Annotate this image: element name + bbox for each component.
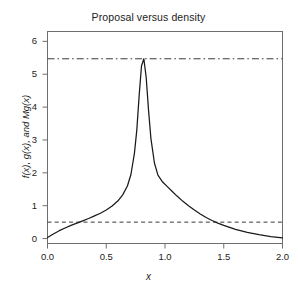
y-tick-label: 0 xyxy=(17,234,37,244)
x-axis-label: x xyxy=(0,271,297,282)
x-tick-label: 0.5 xyxy=(89,252,123,262)
plot-panel-border xyxy=(48,32,283,244)
density-curve-fx xyxy=(48,59,283,238)
x-tick-label: 2.0 xyxy=(266,252,298,262)
x-tick-label: 1.5 xyxy=(207,252,241,262)
plot-canvas xyxy=(0,0,297,294)
y-tick-label: 6 xyxy=(17,36,37,46)
x-axis-ticks xyxy=(48,244,283,249)
y-axis-label: f(x), g(x), and Mg(x) xyxy=(20,57,31,217)
y-axis-ticks xyxy=(43,41,48,238)
chart-figure: Proposal versus density 0.00.51.01.52.0 … xyxy=(0,0,297,294)
x-tick-label: 1.0 xyxy=(148,252,182,262)
x-tick-label: 0.0 xyxy=(31,252,65,262)
